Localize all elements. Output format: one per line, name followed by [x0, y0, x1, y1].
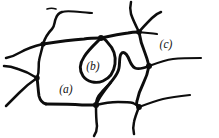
right-mid-spur-east — [149, 58, 201, 66]
bottom-right-junction-group — [133, 95, 190, 134]
left-lower-spur-southwest — [6, 78, 37, 106]
bottom-edge-group — [46, 104, 96, 105]
bottom-right-stub-descending — [133, 107, 139, 134]
top-left-branch-vertical — [43, 12, 62, 44]
top-edge-right-segment — [101, 32, 139, 38]
labels-group: (a) (b) (c) — [59, 38, 172, 96]
node-left-lower — [34, 75, 39, 80]
teardrop-loop-b-group — [80, 35, 115, 82]
top-right-fork-group — [130, 2, 161, 35]
bottom-edge-right-continuation — [96, 102, 133, 105]
label-b: (b) — [86, 60, 100, 73]
bottom-stub-descending — [94, 105, 97, 136]
top-left-branch-horizontal — [62, 11, 92, 13]
top-left-detached-tick — [47, 8, 56, 9]
left-edge-upper-segment — [37, 44, 43, 78]
left-upper-spur-west — [6, 44, 43, 58]
jagged-loop-left-branch — [96, 53, 149, 105]
left-edge-lower-segment — [37, 78, 46, 104]
node-bottom-right — [136, 104, 142, 110]
label-a: (a) — [59, 83, 73, 96]
top-right-edge-group — [101, 32, 139, 38]
network-diagram-svg: (a) (b) (c) — [0, 0, 219, 138]
bottom-junction-group — [93, 102, 133, 136]
right-edge-group — [139, 32, 149, 66]
right-mid-junction-group — [146, 58, 201, 69]
bottom-right-spur-east — [139, 95, 190, 107]
node-left-upper — [40, 41, 45, 46]
fork-branch-right — [139, 12, 161, 32]
figure-canvas: (a) (b) (c) — [0, 0, 219, 138]
bottom-edge-of-central-cell — [46, 104, 96, 105]
label-c: (c) — [160, 38, 173, 51]
fork-branch-left — [130, 2, 139, 32]
jagged-loop-right-branch — [137, 66, 149, 107]
top-edge-of-central-cell — [43, 38, 101, 44]
left-upper-junction-group — [6, 38, 101, 78]
right-edge-upper-segment — [139, 32, 149, 66]
left-lower-spur-northwest — [4, 66, 37, 78]
